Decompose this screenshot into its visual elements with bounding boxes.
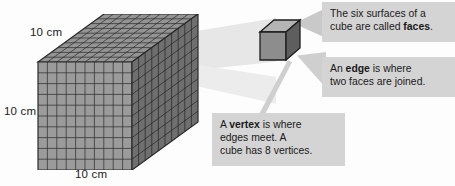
callout-faces-line1: The six surfaces of a <box>330 8 426 19</box>
callout-vertex-keyword: vertex <box>229 119 260 130</box>
callout-edge-line2: two faces are joined. <box>330 76 425 87</box>
callout-vertex-line1-pre: A <box>220 119 229 130</box>
callout-faces: The six surfaces of a cube are called fa… <box>322 2 455 42</box>
callout-faces-line2-post: . <box>430 21 433 32</box>
callout-edge: An edge is where two faces are joined. <box>322 57 455 97</box>
dimension-label-left: 10 cm <box>4 105 36 117</box>
callout-edge-line1-post: is where <box>370 63 412 74</box>
callout-faces-line2-pre: cube are called <box>330 21 403 32</box>
callout-vertex-line1-post: is where <box>260 119 302 130</box>
dimension-label-top: 10 cm <box>30 26 62 38</box>
callout-vertex: A vertex is where edges meet. A cube has… <box>212 113 345 166</box>
callout-vertex-line3: cube has 8 vertices. <box>220 145 312 156</box>
callout-edge-keyword: edge <box>346 63 370 74</box>
small-cube-front-face <box>260 32 286 60</box>
small-unit-cube <box>258 18 302 62</box>
dimension-label-bottom: 10 cm <box>75 168 107 180</box>
callout-vertex-line2: edges meet. A <box>220 132 286 143</box>
callout-edge-line1-pre: An <box>330 63 346 74</box>
figure-canvas: 10 cm 10 cm 10 cm The six surfaces of a … <box>0 0 455 186</box>
callout-faces-keyword: faces <box>403 21 430 32</box>
small-cube-svg <box>258 18 302 62</box>
